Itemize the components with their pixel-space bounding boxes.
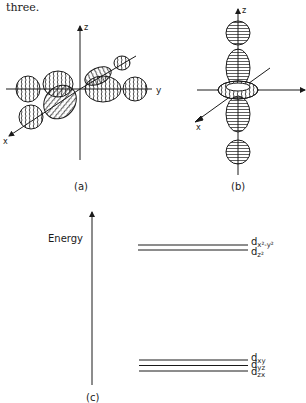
orbital-lobe xyxy=(226,140,250,164)
z-label-b: z xyxy=(242,6,246,15)
caption-b: (b) xyxy=(231,181,245,192)
orbital-lobe xyxy=(226,21,250,45)
orbital-lobe xyxy=(114,56,130,70)
orbital-lobe xyxy=(226,96,250,132)
orbital-diagrams: z y x z x xyxy=(0,0,306,403)
orbital-lobe xyxy=(19,105,43,129)
caption-a: (a) xyxy=(74,181,88,192)
x-label-a: x xyxy=(3,137,8,146)
orbital-lobe xyxy=(16,76,40,102)
energy-label: Energy xyxy=(48,233,83,244)
panel-b-figure xyxy=(195,9,305,175)
panel-a-figure xyxy=(6,26,152,160)
z-label-a: z xyxy=(84,23,88,32)
orbital-lobe xyxy=(123,77,147,101)
x-label-b: x xyxy=(196,123,201,132)
caption-c: (c) xyxy=(86,392,99,403)
energy-diagram xyxy=(92,212,248,385)
label-dzx: dzx xyxy=(251,367,265,380)
label-dz2: dz² xyxy=(251,247,264,260)
y-label-a: y xyxy=(156,85,162,95)
